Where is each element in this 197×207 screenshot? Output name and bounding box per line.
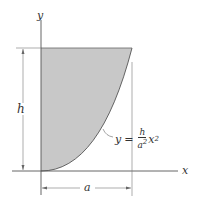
shaded-region xyxy=(41,48,132,171)
variable-exponent: 2 xyxy=(155,135,159,143)
equation-leader xyxy=(103,129,113,137)
width-dimension-label: a xyxy=(84,182,91,193)
a-arrow-right xyxy=(126,187,131,190)
h-arrow-top xyxy=(22,49,25,54)
equation-fraction: h a2 xyxy=(137,128,147,150)
diagram-graphics xyxy=(0,0,197,207)
h-arrow-bottom xyxy=(22,165,25,170)
fraction-numerator: h xyxy=(138,128,146,138)
parabolic-area-diagram: y x h a y = h a2 x2 xyxy=(0,0,197,207)
a-arrow-left xyxy=(42,187,47,190)
fraction-denominator: a2 xyxy=(137,138,147,150)
x-axis-label: x xyxy=(182,165,188,176)
denominator-exponent: 2 xyxy=(143,138,147,146)
equation-equals: = xyxy=(124,133,133,146)
equation-lhs: y xyxy=(115,133,121,146)
curve-equation: y = h a2 x2 xyxy=(115,128,159,150)
height-dimension-label: h xyxy=(17,103,25,115)
y-axis-label: y xyxy=(37,10,43,21)
